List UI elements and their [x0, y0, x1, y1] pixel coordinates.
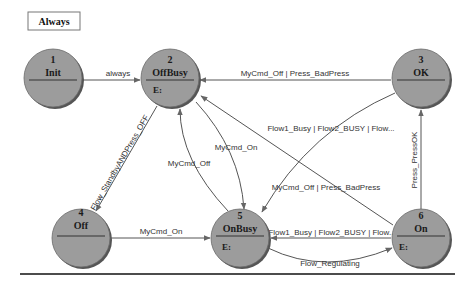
svg-text:Flow_Regulating: Flow_Regulating	[300, 259, 360, 268]
edge-onbusy-to-offbusy[interactable]: MyCmd_Off	[168, 109, 228, 211]
state-node-off[interactable]: 4 Off	[52, 207, 112, 269]
svg-text:Flow_StandbyANDPress_OFF: Flow_StandbyANDPress_OFF	[89, 113, 151, 212]
svg-text:Off: Off	[74, 220, 89, 231]
edge-offbusy-to-off[interactable]: Flow_StandbyANDPress_OFF	[89, 106, 157, 212]
svg-text:MyCmd_Off: MyCmd_Off	[168, 159, 211, 168]
edge-init-to-offbusy[interactable]: always	[82, 69, 140, 80]
edge-on-to-onbusy[interactable]: Flow1_Busy | Flow2_BUSY | Flow...	[268, 228, 395, 238]
svg-text:OK: OK	[413, 67, 429, 78]
svg-text:5: 5	[238, 210, 243, 221]
state-node-offbusy[interactable]: 2 OffBusy E:	[141, 49, 201, 109]
svg-text:MyCmd_On: MyCmd_On	[215, 143, 258, 152]
state-node-init[interactable]: 1 Init	[24, 49, 84, 109]
diagram-title: Always	[38, 16, 69, 27]
svg-text:E:: E:	[222, 242, 231, 252]
svg-text:6: 6	[419, 210, 424, 221]
diagram-title-box: Always	[28, 12, 80, 30]
svg-text:always: always	[106, 69, 130, 78]
edge-on-to-offbusy[interactable]: MyCmd_Off | Press_BadPress	[201, 96, 393, 225]
edge-ok-to-offbusy[interactable]: MyCmd_Off | Press_BadPress	[200, 69, 391, 80]
svg-text:Press_PressOK: Press_PressOK	[410, 131, 419, 189]
svg-text:On: On	[414, 223, 428, 234]
svg-text:Flow1_Busy | Flow2_BUSY | Flow: Flow1_Busy | Flow2_BUSY | Flow...	[267, 124, 394, 133]
svg-text:MyCmd_On: MyCmd_On	[140, 227, 183, 236]
svg-text:MyCmd_Off | Press_BadPress: MyCmd_Off | Press_BadPress	[272, 183, 381, 192]
svg-text:E:: E:	[153, 85, 162, 95]
edge-off-to-onbusy[interactable]: MyCmd_On	[111, 227, 210, 238]
svg-text:3: 3	[419, 54, 424, 65]
svg-text:MyCmd_Off | Press_BadPress: MyCmd_Off | Press_BadPress	[241, 69, 350, 78]
edge-on-to-ok[interactable]: Press_PressOK	[410, 110, 421, 209]
svg-text:Flow1_Busy | Flow2_BUSY | Flow: Flow1_Busy | Flow2_BUSY | Flow...	[268, 228, 395, 237]
state-diagram: Always always MyCmd_Off | Press_BadPress…	[0, 0, 474, 288]
state-node-onbusy[interactable]: 5 OnBusy E:	[211, 209, 271, 269]
svg-text:E:: E:	[399, 242, 408, 252]
svg-text:OnBusy: OnBusy	[223, 223, 257, 234]
svg-text:4: 4	[79, 207, 84, 218]
edge-ok-to-onbusy[interactable]: Flow1_Busy | Flow2_BUSY | Flow...	[262, 93, 395, 212]
edge-onbusy-to-on[interactable]: Flow_Regulating	[268, 248, 392, 268]
edge-offbusy-to-onbusy[interactable]: MyCmd_On	[196, 102, 257, 209]
svg-text:OffBusy: OffBusy	[152, 67, 188, 78]
state-node-ok[interactable]: 3 OK	[392, 49, 452, 109]
svg-text:1: 1	[51, 54, 56, 65]
svg-text:2: 2	[168, 54, 173, 65]
svg-text:Init: Init	[45, 67, 61, 78]
state-node-on[interactable]: 6 On E:	[392, 209, 452, 269]
